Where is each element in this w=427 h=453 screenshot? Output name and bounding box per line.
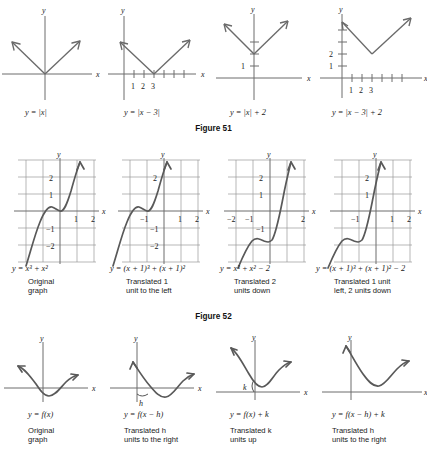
x-tick-label-1: 1 (74, 215, 78, 224)
y-axis-label: y (120, 6, 125, 15)
panel-caption: Translated 2 units down (234, 277, 276, 296)
equation-text: y = f(x) + k (230, 410, 269, 419)
x-tick-label-3: 3 (151, 82, 155, 91)
equation-label: y = |x − 3| (124, 108, 160, 117)
y-tick-label-1: 1 (329, 62, 333, 71)
panel-caption: Original graph (28, 426, 54, 445)
x-tick-label-1: 1 (349, 86, 353, 95)
plot-abs-x-minus-3-plus-2: x y 1 2 3 1 (318, 0, 427, 108)
y-tick-label-2: 2 (49, 174, 53, 183)
x-axis-label: x (91, 384, 96, 393)
figure-51-panel-1: x y y = |x| (0, 0, 106, 140)
cubic-curve (26, 162, 84, 266)
equation-text: y = f(x − h) (124, 410, 163, 419)
fx-curve (18, 366, 78, 396)
caption-line-1: Translated 2 (234, 277, 276, 286)
panel-caption: Translated 1 unit to the left (126, 277, 172, 296)
equation-label: y = x³ + x² − 2 (220, 264, 270, 273)
y-tick-label-neg2: −2 (46, 242, 55, 251)
caption-line-2: left, 2 units down (334, 286, 391, 295)
caption-line-1: Translated h (124, 426, 178, 435)
abs-value-v-shape (224, 21, 288, 54)
equation-text: y = f(x) (28, 410, 53, 419)
y-axis-label: y (133, 334, 138, 343)
equation-text: y = (x + 1)³ + (x + 1)² (110, 264, 185, 273)
figure-52-caption: Figure 52 (0, 312, 427, 321)
y-axis-label: y (372, 150, 377, 159)
y-axis-label: y (39, 334, 44, 343)
plot-cubic-down-2: x y 2 1 −1 −2 −1 2 (214, 146, 320, 268)
equation-label: y = x³ + x² (12, 264, 48, 273)
y-tick-label-2: 2 (153, 174, 157, 183)
plot-cubic-left-1: x y 2 −1 −2 −1 1 2 (108, 146, 214, 268)
panel-caption: Original graph (28, 277, 54, 296)
y-tick-label-2: 2 (365, 174, 369, 183)
y-tick-label-2: 2 (329, 50, 333, 59)
y-tick-label-1: 1 (259, 191, 263, 200)
y-tick-label-neg1: −1 (46, 225, 55, 234)
plot-abs-x: x y (0, 0, 106, 108)
equation-text: y = |x| (25, 108, 47, 117)
y-tick-label-1: 1 (49, 191, 53, 200)
equation-text: y = |x − 3| (124, 108, 160, 117)
figure-52-panel-3: x y 2 1 −1 −2 −1 2 y = x³ + x² − 2 Trans… (214, 146, 320, 322)
x-tick-label-neg1: −1 (351, 215, 360, 224)
x-tick-label-neg1: −1 (140, 215, 149, 224)
y-axis-label: y (338, 5, 343, 14)
equation-label: y = f(x − h) (124, 410, 163, 419)
figure-51-panel-3: x y 1 y = |x| + 2 (212, 0, 318, 140)
x-axis-label: x (417, 207, 422, 216)
x-tick-label-1: 1 (178, 215, 182, 224)
y-tick-label-neg2: −2 (150, 242, 159, 251)
y-axis-label: y (347, 333, 352, 342)
x-tick-label-neg1: −1 (245, 215, 254, 224)
equation-label: y = f(x) (28, 410, 53, 419)
caption-line-1: Translated k (230, 426, 272, 435)
x-axis-label: x (197, 384, 202, 393)
caption-line-2: units to the right (124, 435, 178, 444)
x-tick-label-1: 1 (390, 215, 394, 224)
panel-caption: Translated h units to the right (124, 426, 178, 445)
y-tick-label-1: 1 (365, 191, 369, 200)
x-axis-label: x (303, 388, 308, 397)
plot-cubic-left-1-down-2: x y 2 1 −1 1 2 (320, 146, 427, 268)
x-tick-label-1: 1 (131, 82, 135, 91)
abs-value-v-shape (120, 40, 190, 74)
fx-curve-shifted-right (130, 362, 194, 397)
panel-caption: Translated 1 unit left, 2 units down (334, 277, 391, 296)
y-axis-label: y (250, 5, 255, 14)
y-axis-label: y (41, 6, 46, 15)
y-tick-label-neg1: −1 (150, 225, 159, 234)
x-tick-label-2: 2 (407, 215, 411, 224)
y-axis-label: y (251, 333, 256, 342)
equation-label: y = |x| + 2 (230, 108, 266, 117)
y-axis-label: y (266, 150, 271, 159)
caption-line-2: graph (28, 286, 54, 295)
equation-label: y = |x| (25, 108, 47, 117)
x-axis-label: x (311, 207, 316, 216)
x-tick-label-neg2: −2 (227, 215, 236, 224)
figure-53-panel-3: x y k y = f(x) + k Translated k units up (212, 330, 318, 453)
caption-line-2: units to the right (332, 435, 386, 444)
caption-line-1: Original (28, 277, 54, 286)
equation-text: y = |x − 3| + 2 (332, 108, 382, 117)
k-shift-label: k (243, 383, 247, 392)
caption-line-1: Translated 1 unit (334, 277, 391, 286)
figure-51-panel-2: x y 1 2 3 (106, 0, 212, 140)
y-tick-label-1: 1 (241, 62, 245, 71)
figure-page: x y y = |x| x y (0, 0, 427, 453)
x-tick-label-2: 2 (301, 215, 305, 224)
caption-line-2: units up (230, 435, 272, 444)
plot-fx-plus-k: x y k (212, 330, 318, 410)
x-axis-label: x (200, 70, 205, 79)
equation-text: y = f(x − h) + k (332, 410, 385, 419)
equation-label: y = (x + 1)³ + (x + 1)² (110, 264, 185, 273)
x-axis-label: x (205, 207, 210, 216)
figure-51-row: x y y = |x| x y (0, 0, 427, 140)
x-tick-label-2: 2 (359, 86, 363, 95)
plot-cubic-original: x y 2 1 −1 −2 1 2 (4, 146, 110, 268)
figure-53-panel-1: x y y = f(x) Original graph (0, 330, 106, 453)
abs-value-v-shape (342, 18, 411, 54)
x-axis-label: x (306, 74, 311, 83)
x-tick-label-2: 2 (195, 215, 199, 224)
